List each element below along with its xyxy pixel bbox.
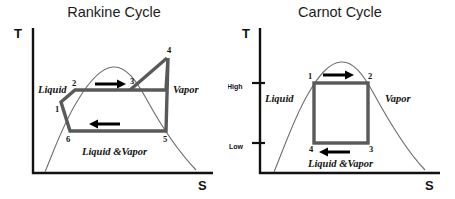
rankine-y-axis-label: T xyxy=(14,26,22,41)
carnot-point-1: 1 xyxy=(308,71,312,81)
rankine-arrow-right xyxy=(95,80,126,89)
rankine-point-3: 3 xyxy=(130,76,134,86)
rankine-point-2: 2 xyxy=(72,78,76,88)
carnot-t-low-label: T Low xyxy=(228,137,244,150)
rankine-point-1: 1 xyxy=(55,104,59,114)
carnot-t-high-sub: High xyxy=(228,83,243,91)
carnot-point-3: 3 xyxy=(369,144,373,154)
rankine-point-5: 5 xyxy=(163,134,167,144)
rankine-liquid-label: Liquid xyxy=(37,84,67,95)
carnot-point-2: 2 xyxy=(368,71,372,81)
rankine-point-4: 4 xyxy=(167,45,172,55)
rankine-title: Rankine Cycle xyxy=(67,4,161,20)
carnot-point-4: 4 xyxy=(309,144,314,154)
carnot-y-axis-label: T xyxy=(242,26,250,41)
carnot-saturation-dome xyxy=(274,62,425,172)
rankine-point-6: 6 xyxy=(66,134,70,144)
carnot-liquid-vapor-label: Liquid &Vapor xyxy=(307,158,374,169)
carnot-title: Carnot Cycle xyxy=(298,4,382,20)
carnot-cycle-path xyxy=(314,83,368,143)
carnot-diagram-svg: Carnot Cycle T S T High T Low xyxy=(228,0,455,199)
carnot-cycle-panel: Carnot Cycle T S T High T Low xyxy=(228,0,455,199)
carnot-t-high-label: T High xyxy=(228,77,243,91)
rankine-vapor-label: Vapor xyxy=(173,84,200,95)
carnot-vapor-label: Vapor xyxy=(385,93,412,104)
carnot-liquid-label: Liquid xyxy=(264,93,294,104)
rankine-cycle-panel: Rankine Cycle T S xyxy=(0,0,228,199)
carnot-arrow-left xyxy=(319,148,350,157)
rankine-arrow-left xyxy=(89,120,120,129)
carnot-arrow-right xyxy=(323,71,354,80)
rankine-diagram-svg: Rankine Cycle T S xyxy=(0,0,228,199)
carnot-t-low-sub: Low xyxy=(229,143,244,150)
carnot-x-axis-label: S xyxy=(425,178,434,193)
rankine-x-axis-label: S xyxy=(198,178,207,193)
rankine-liquid-vapor-label: Liquid &Vapor xyxy=(81,146,148,157)
figure-canvas: Rankine Cycle T S xyxy=(0,0,455,199)
rankine-turbine-line xyxy=(130,58,167,90)
